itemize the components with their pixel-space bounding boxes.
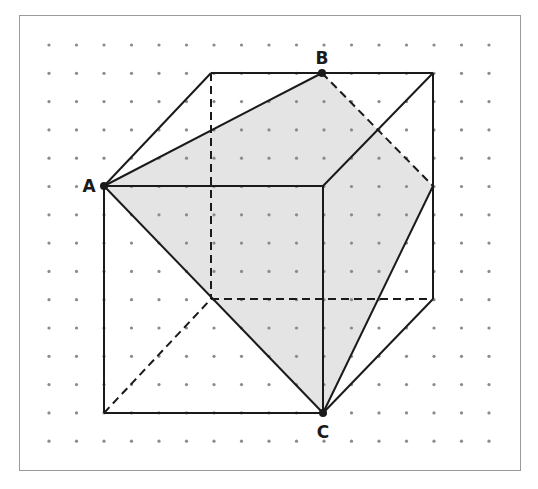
grid-dot	[432, 326, 435, 329]
grid-dot	[295, 213, 298, 216]
grid-dot	[130, 440, 133, 443]
grid-dot	[487, 383, 490, 386]
grid-dot	[295, 355, 298, 358]
grid-dot	[47, 326, 50, 329]
grid-dot	[47, 72, 50, 75]
grid-dot	[185, 72, 188, 75]
grid-dot	[405, 213, 408, 216]
grid-dot	[75, 157, 78, 160]
grid-dot	[102, 43, 105, 46]
grid-dot	[157, 213, 160, 216]
point-c-label: C	[317, 422, 329, 442]
geometry-diagram: A B C	[0, 0, 538, 489]
grid-dot	[212, 440, 215, 443]
grid-dot	[487, 213, 490, 216]
grid-dot	[377, 43, 380, 46]
point-c-marker	[319, 409, 327, 417]
grid-dot	[75, 298, 78, 301]
grid-dot	[377, 440, 380, 443]
grid-dot	[212, 100, 215, 103]
grid-dot	[47, 185, 50, 188]
grid-dot	[350, 411, 353, 414]
grid-dot	[460, 43, 463, 46]
grid-dot	[212, 157, 215, 160]
grid-dot	[240, 128, 243, 131]
grid-dot	[460, 72, 463, 75]
grid-dot	[185, 383, 188, 386]
grid-dot	[102, 128, 105, 131]
grid-dot	[322, 43, 325, 46]
grid-dot	[460, 242, 463, 245]
grid-dot	[487, 185, 490, 188]
grid-dot	[460, 383, 463, 386]
grid-dot	[185, 157, 188, 160]
grid-dot	[377, 185, 380, 188]
grid-dot	[295, 242, 298, 245]
grid-dot	[240, 157, 243, 160]
grid-dot	[240, 213, 243, 216]
grid-dot	[130, 270, 133, 273]
grid-dot	[432, 355, 435, 358]
grid-dot	[240, 355, 243, 358]
grid-dot	[405, 185, 408, 188]
grid-dot	[75, 440, 78, 443]
grid-dot	[322, 128, 325, 131]
point-a-label: A	[82, 176, 96, 196]
grid-dot	[212, 355, 215, 358]
grid-dot	[350, 326, 353, 329]
grid-dot	[185, 242, 188, 245]
grid-dot	[460, 411, 463, 414]
grid-dot	[240, 270, 243, 273]
grid-dot	[460, 355, 463, 358]
grid-dot	[267, 326, 270, 329]
grid-dot	[350, 270, 353, 273]
grid-dot	[295, 100, 298, 103]
grid-dot	[75, 100, 78, 103]
grid-dot	[487, 270, 490, 273]
grid-dot	[377, 157, 380, 160]
grid-dot	[460, 298, 463, 301]
grid-dot	[267, 383, 270, 386]
grid-dot	[157, 440, 160, 443]
grid-dot	[185, 213, 188, 216]
grid-dot	[212, 242, 215, 245]
grid-dot	[377, 213, 380, 216]
grid-dot	[47, 242, 50, 245]
grid-dot	[47, 355, 50, 358]
grid-dot	[102, 72, 105, 75]
grid-dot	[267, 43, 270, 46]
grid-dot	[267, 270, 270, 273]
grid-dot	[47, 213, 50, 216]
grid-dot	[47, 383, 50, 386]
grid-dot	[240, 440, 243, 443]
grid-dot	[75, 43, 78, 46]
grid-dot	[75, 411, 78, 414]
point-b-label: B	[316, 48, 329, 68]
grid-dot	[322, 100, 325, 103]
grid-dot	[47, 157, 50, 160]
grid-dot	[157, 383, 160, 386]
grid-dot	[377, 242, 380, 245]
grid-dot	[460, 326, 463, 329]
grid-dot	[102, 440, 105, 443]
grid-dot	[47, 43, 50, 46]
grid-dot	[295, 440, 298, 443]
grid-dot	[377, 326, 380, 329]
grid-dot	[432, 43, 435, 46]
grid-dot	[405, 270, 408, 273]
grid-dot	[350, 298, 353, 301]
grid-dot	[130, 100, 133, 103]
grid-dot	[75, 185, 78, 188]
grid-dot	[212, 383, 215, 386]
grid-dot	[130, 242, 133, 245]
grid-dot	[487, 128, 490, 131]
grid-dot	[405, 411, 408, 414]
grid-dot	[295, 128, 298, 131]
grid-dot	[102, 100, 105, 103]
grid-dot	[157, 100, 160, 103]
grid-dot	[405, 355, 408, 358]
grid-dot	[460, 100, 463, 103]
grid-dot	[157, 43, 160, 46]
grid-dot	[47, 128, 50, 131]
grid-dot	[267, 242, 270, 245]
